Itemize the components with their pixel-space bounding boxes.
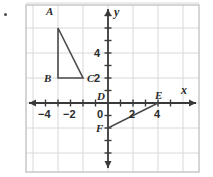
y-axis-label: y xyxy=(112,5,120,19)
x-axis-label: x xyxy=(180,83,187,97)
point-label-a: A xyxy=(45,5,53,17)
y-tick-label-2: 2 xyxy=(94,72,100,84)
point-label-b: B xyxy=(43,72,51,84)
coordinate-plane-figure: A B C D E F −4 −2 0 2 4 2 4 y x xyxy=(0,0,213,177)
list-bullet-icon xyxy=(4,13,7,16)
point-label-e: E xyxy=(154,89,162,101)
x-tick-label-4: 4 xyxy=(154,108,161,120)
x-tick-label--4: −4 xyxy=(38,108,51,120)
y-tick-label-4: 4 xyxy=(94,47,101,59)
plot-background xyxy=(26,5,199,172)
coordinate-grid-svg: A B C D E F −4 −2 0 2 4 2 4 y x xyxy=(0,0,213,177)
x-tick-label-2: 2 xyxy=(129,108,135,120)
x-tick-label--2: −2 xyxy=(63,108,76,120)
point-label-d: D xyxy=(96,90,105,102)
x-tick-label-0: 0 xyxy=(97,108,103,120)
point-label-f: F xyxy=(95,122,104,134)
